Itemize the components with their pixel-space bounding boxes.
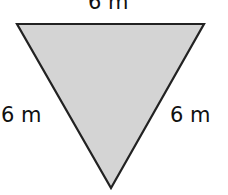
right-side-label: 6 m bbox=[170, 103, 211, 127]
top-side-label: 6 m bbox=[88, 0, 129, 14]
triangle-diagram: 6 m 6 m 6 m bbox=[0, 0, 228, 195]
left-side-label: 6 m bbox=[1, 103, 42, 127]
